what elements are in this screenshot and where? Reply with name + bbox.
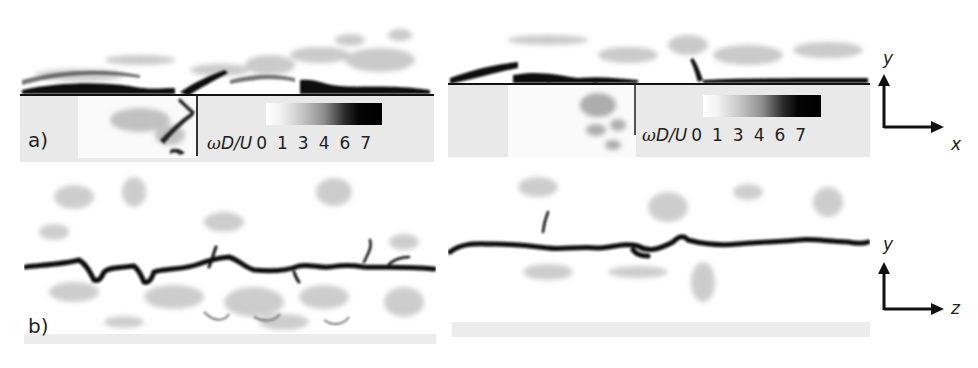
axis-label-z: z (951, 298, 960, 318)
omega-symbol: ω (207, 133, 221, 153)
colorbar-a-right (703, 95, 821, 117)
colorbar-label-a-left: ωD/U013467 (207, 133, 371, 153)
colorbar-label-a-right: ωD/U013467 (642, 125, 806, 145)
colorbar-tick: 6 (774, 125, 785, 145)
axes-glyph-xy (878, 68, 968, 138)
panel-b-right (448, 172, 870, 340)
omega-symbol: ω (642, 125, 656, 145)
colorbar-tick: 0 (256, 133, 267, 153)
colorbar-tick: 7 (795, 125, 806, 145)
colorbar-tick: 4 (319, 133, 330, 153)
colorbar-tick: 3 (733, 125, 744, 145)
vorticity-field-b-right (448, 172, 870, 340)
panel-label-b: b) (28, 314, 49, 338)
colorbar-tick: 6 (339, 133, 350, 153)
colorbar-quantity: D/U (221, 133, 252, 153)
panel-label-a: a) (28, 128, 48, 152)
colorbar-a-left (266, 103, 382, 125)
colorbar-tick: 1 (712, 125, 723, 145)
colorbar-tick: 4 (754, 125, 765, 145)
axes-arrows-icon (878, 68, 968, 138)
axis-label-y-top: y (883, 48, 893, 68)
colorbar-tick: 7 (360, 133, 371, 153)
colorbar-tick: 3 (298, 133, 309, 153)
axis-label-x: x (951, 134, 961, 154)
panel-b-left (24, 172, 436, 344)
vorticity-field-b-left (24, 172, 436, 344)
axis-label-y-bottom: y (883, 234, 893, 254)
colorbar-tick: 0 (691, 125, 702, 145)
colorbar-tick: 1 (277, 133, 288, 153)
colorbar-quantity: D/U (656, 125, 687, 145)
